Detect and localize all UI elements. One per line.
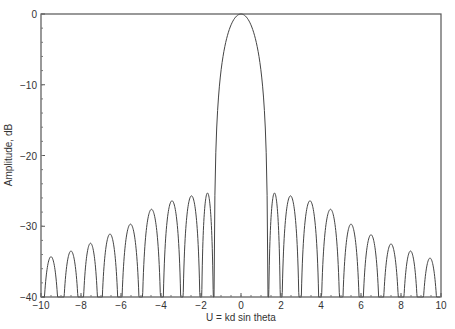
y-axis-label: Amplitude, dB — [3, 124, 14, 187]
x-tick-label: 4 — [318, 300, 324, 311]
y-tick-label: −40 — [20, 292, 37, 303]
x-tick-label: −8 — [75, 300, 87, 311]
x-tick-label: 2 — [278, 300, 284, 311]
antenna-pattern-chart: −10−8−6−4−20246810 0−10−20−30−40 U = kd … — [0, 0, 455, 329]
x-tick-label: 0 — [238, 300, 244, 311]
y-tick-label: −20 — [20, 151, 37, 162]
x-axis-ticks: −10−8−6−4−20246810 — [33, 293, 447, 311]
x-tick-label: 10 — [435, 300, 447, 311]
y-tick-label: 0 — [31, 9, 37, 20]
x-tick-label: −4 — [155, 300, 167, 311]
y-tick-label: −30 — [20, 221, 37, 232]
plot-frame — [41, 14, 441, 297]
x-tick-label: 8 — [398, 300, 404, 311]
x-axis-label: U = kd sin theta — [206, 312, 276, 323]
pattern-curve — [41, 14, 440, 297]
x-tick-label: −6 — [115, 300, 127, 311]
y-tick-label: −10 — [20, 80, 37, 91]
x-tick-label: 6 — [358, 300, 364, 311]
x-tick-label: −2 — [195, 300, 207, 311]
